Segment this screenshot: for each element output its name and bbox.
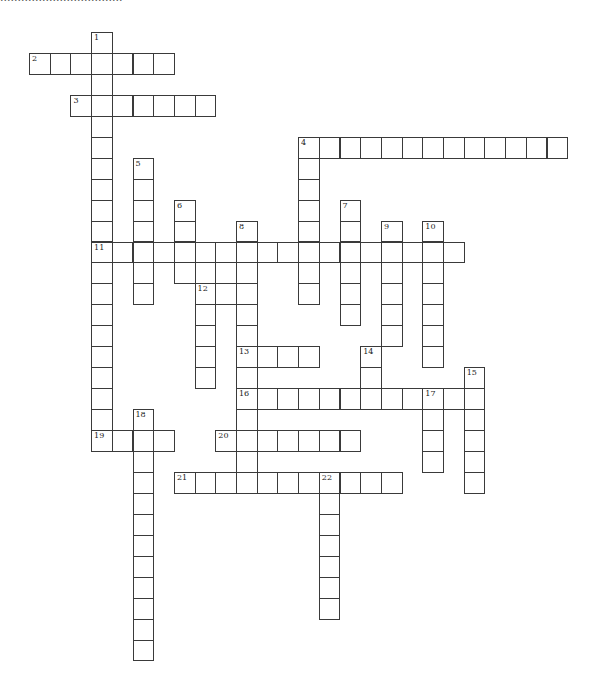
crossword-cell[interactable] bbox=[340, 430, 362, 452]
crossword-cell[interactable]: 1 bbox=[91, 32, 113, 54]
crossword-cell[interactable] bbox=[236, 262, 258, 284]
crossword-cell[interactable] bbox=[236, 367, 258, 389]
crossword-cell[interactable] bbox=[91, 304, 113, 326]
crossword-cell[interactable] bbox=[298, 179, 320, 201]
crossword-cell[interactable]: 17 bbox=[422, 388, 444, 410]
crossword-cell[interactable] bbox=[133, 514, 155, 536]
crossword-cell[interactable] bbox=[257, 472, 279, 494]
crossword-cell[interactable] bbox=[215, 242, 237, 264]
crossword-cell[interactable] bbox=[319, 577, 341, 599]
crossword-cell[interactable] bbox=[91, 409, 113, 431]
crossword-cell[interactable] bbox=[422, 304, 444, 326]
crossword-cell[interactable] bbox=[464, 409, 486, 431]
crossword-cell[interactable] bbox=[298, 283, 320, 305]
crossword-cell[interactable] bbox=[133, 598, 155, 620]
crossword-cell[interactable] bbox=[91, 283, 113, 305]
crossword-cell[interactable]: 20 bbox=[215, 430, 237, 452]
crossword-cell[interactable] bbox=[91, 388, 113, 410]
crossword-cell[interactable] bbox=[402, 242, 424, 264]
crossword-cell[interactable] bbox=[505, 137, 527, 159]
crossword-cell[interactable] bbox=[133, 221, 155, 243]
crossword-cell[interactable] bbox=[91, 74, 113, 96]
crossword-cell[interactable] bbox=[91, 367, 113, 389]
crossword-cell[interactable] bbox=[112, 242, 134, 264]
crossword-cell[interactable] bbox=[319, 430, 341, 452]
crossword-cell[interactable] bbox=[319, 556, 341, 578]
crossword-cell[interactable] bbox=[547, 137, 569, 159]
crossword-cell[interactable]: 18 bbox=[133, 409, 155, 431]
crossword-cell[interactable]: 21 bbox=[174, 472, 196, 494]
crossword-cell[interactable] bbox=[215, 262, 237, 284]
crossword-cell[interactable]: 16 bbox=[236, 388, 258, 410]
crossword-cell[interactable] bbox=[298, 242, 320, 264]
crossword-cell[interactable] bbox=[319, 598, 341, 620]
crossword-cell[interactable] bbox=[360, 242, 382, 264]
crossword-cell[interactable] bbox=[402, 137, 424, 159]
crossword-cell[interactable] bbox=[298, 430, 320, 452]
crossword-cell[interactable]: 14 bbox=[360, 346, 382, 368]
crossword-cell[interactable] bbox=[236, 242, 258, 264]
crossword-cell[interactable] bbox=[526, 137, 548, 159]
crossword-cell[interactable] bbox=[91, 346, 113, 368]
crossword-cell[interactable] bbox=[340, 388, 362, 410]
crossword-cell[interactable] bbox=[277, 472, 299, 494]
crossword-cell[interactable] bbox=[153, 430, 175, 452]
crossword-cell[interactable] bbox=[133, 472, 155, 494]
crossword-cell[interactable] bbox=[112, 95, 134, 117]
crossword-cell[interactable]: 4 bbox=[298, 137, 320, 159]
crossword-cell[interactable] bbox=[319, 242, 341, 264]
crossword-cell[interactable] bbox=[91, 221, 113, 243]
crossword-cell[interactable] bbox=[236, 472, 258, 494]
crossword-cell[interactable] bbox=[319, 535, 341, 557]
crossword-cell[interactable] bbox=[319, 137, 341, 159]
crossword-cell[interactable] bbox=[195, 242, 217, 264]
crossword-cell[interactable] bbox=[195, 262, 217, 284]
crossword-cell[interactable] bbox=[215, 283, 237, 305]
crossword-cell[interactable] bbox=[422, 242, 444, 264]
crossword-cell[interactable] bbox=[133, 283, 155, 305]
crossword-cell[interactable] bbox=[195, 304, 217, 326]
crossword-cell[interactable] bbox=[153, 95, 175, 117]
crossword-cell[interactable] bbox=[133, 577, 155, 599]
crossword-cell[interactable] bbox=[464, 388, 486, 410]
crossword-cell[interactable] bbox=[153, 53, 175, 75]
crossword-cell[interactable] bbox=[236, 451, 258, 473]
crossword-cell[interactable] bbox=[133, 95, 155, 117]
crossword-cell[interactable] bbox=[133, 53, 155, 75]
crossword-cell[interactable] bbox=[174, 262, 196, 284]
crossword-cell[interactable] bbox=[195, 325, 217, 347]
crossword-cell[interactable] bbox=[236, 430, 258, 452]
crossword-cell[interactable] bbox=[298, 200, 320, 222]
crossword-cell[interactable] bbox=[277, 242, 299, 264]
crossword-cell[interactable] bbox=[195, 472, 217, 494]
crossword-cell[interactable] bbox=[340, 472, 362, 494]
crossword-cell[interactable]: 3 bbox=[70, 95, 92, 117]
crossword-cell[interactable] bbox=[381, 388, 403, 410]
crossword-cell[interactable] bbox=[91, 200, 113, 222]
crossword-cell[interactable] bbox=[133, 430, 155, 452]
crossword-cell[interactable]: 15 bbox=[464, 367, 486, 389]
crossword-cell[interactable] bbox=[298, 158, 320, 180]
crossword-cell[interactable] bbox=[340, 137, 362, 159]
crossword-cell[interactable] bbox=[133, 242, 155, 264]
crossword-cell[interactable] bbox=[464, 472, 486, 494]
crossword-cell[interactable] bbox=[298, 221, 320, 243]
crossword-cell[interactable] bbox=[298, 388, 320, 410]
crossword-cell[interactable] bbox=[464, 137, 486, 159]
crossword-cell[interactable] bbox=[340, 304, 362, 326]
crossword-cell[interactable] bbox=[257, 388, 279, 410]
crossword-cell[interactable] bbox=[277, 388, 299, 410]
crossword-cell[interactable] bbox=[422, 137, 444, 159]
crossword-cell[interactable] bbox=[484, 137, 506, 159]
crossword-cell[interactable] bbox=[340, 242, 362, 264]
crossword-cell[interactable]: 8 bbox=[236, 221, 258, 243]
crossword-cell[interactable] bbox=[340, 283, 362, 305]
crossword-cell[interactable] bbox=[91, 325, 113, 347]
crossword-cell[interactable] bbox=[236, 409, 258, 431]
crossword-cell[interactable] bbox=[50, 53, 72, 75]
crossword-cell[interactable] bbox=[298, 346, 320, 368]
crossword-cell[interactable] bbox=[112, 430, 134, 452]
crossword-cell[interactable]: 19 bbox=[91, 430, 113, 452]
crossword-cell[interactable] bbox=[91, 179, 113, 201]
crossword-cell[interactable] bbox=[91, 158, 113, 180]
